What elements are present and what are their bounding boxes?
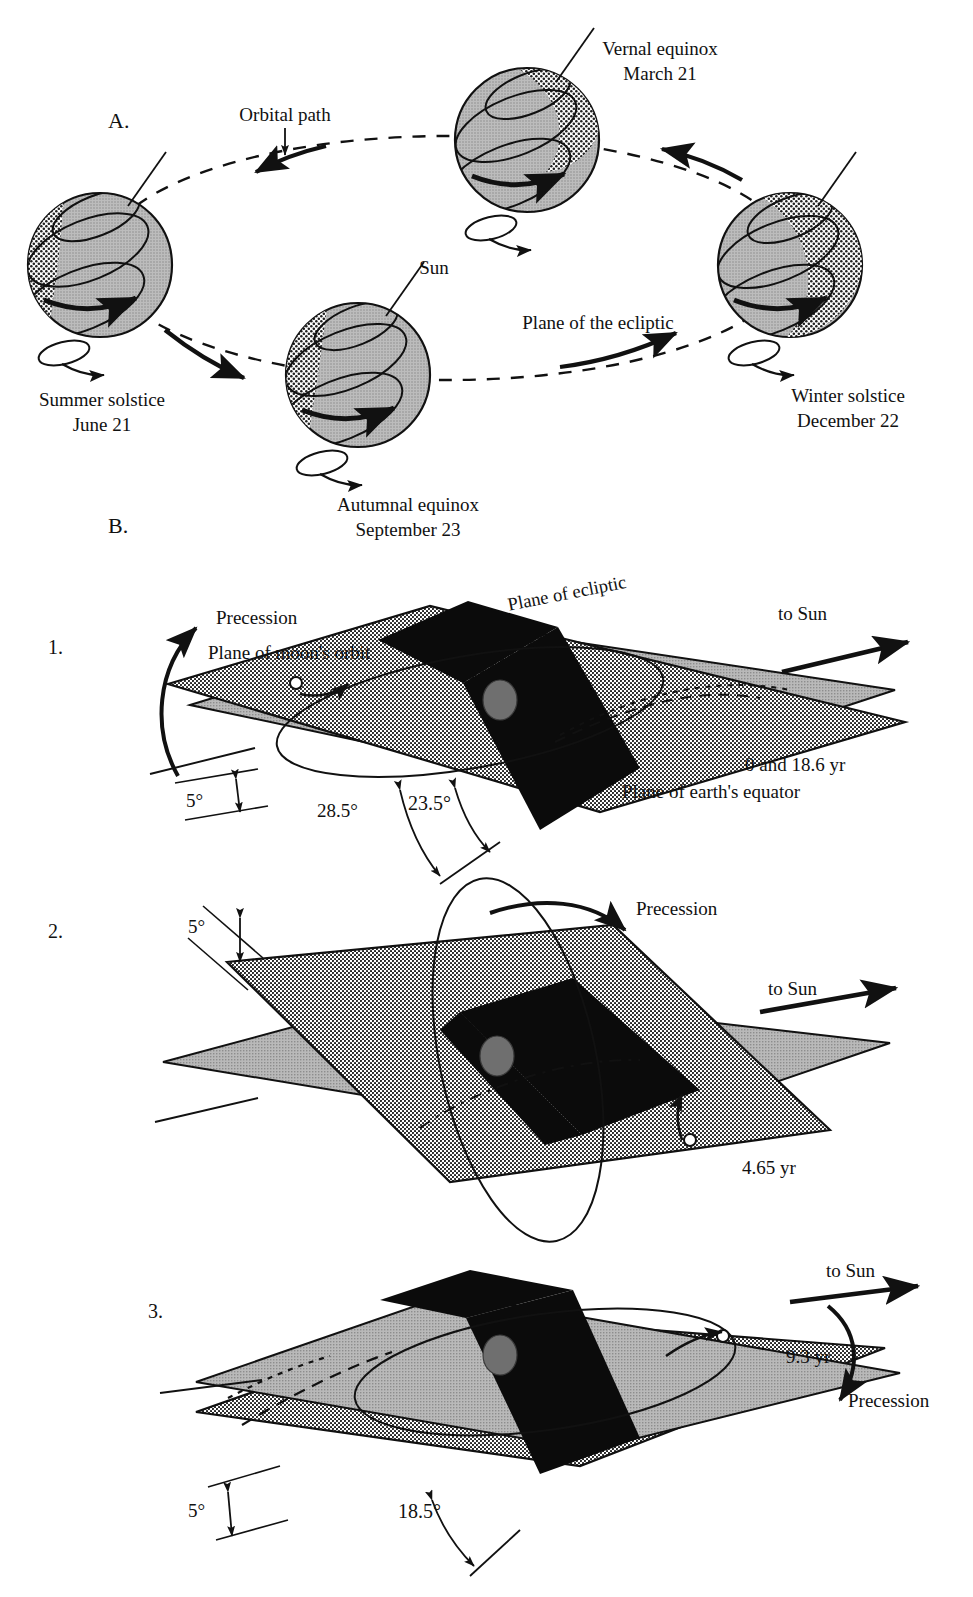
panel-b-letter: B.	[108, 513, 128, 539]
panel-a-letter: A.	[108, 108, 129, 134]
precession-arrow-1	[162, 628, 196, 776]
step-2-to-sun-label: to Sun	[768, 978, 817, 1000]
earth-globe-autumnal-equinox	[268, 262, 430, 485]
orbit-direction-arrow-top	[256, 146, 326, 172]
earth-body-2	[480, 1036, 514, 1076]
step-1-plane-of-moons-orbit-label: Plane of moon's orbit	[208, 642, 370, 664]
winter-solstice-date: December 22	[797, 410, 899, 432]
autumnal-equinox-label: Autumnal equinox	[337, 494, 479, 516]
angle-dimension-18-5-deg-3	[432, 1500, 520, 1576]
plane-of-the-ecliptic-label: Plane of the ecliptic	[522, 312, 673, 334]
step-1-to-sun-label: to Sun	[778, 603, 827, 625]
sun-label: Sun	[419, 257, 449, 279]
step-2-number: 2.	[48, 920, 63, 944]
earth-globe-summer-solstice	[10, 152, 172, 375]
summer-solstice-label: Summer solstice	[39, 389, 165, 411]
step-1-precession-label: Precession	[216, 607, 297, 629]
earth-globe-vernal-equinox	[436, 28, 601, 250]
vernal-equinox-label: Vernal equinox	[602, 38, 718, 60]
summer-solstice-date: June 21	[73, 414, 132, 436]
autumnal-equinox-date: September 23	[355, 519, 460, 541]
step-1-plane-of-earths-equator-label: Plane of earth's equator	[622, 781, 800, 803]
step-1-time-label: 0 and 18.6 yr	[745, 754, 845, 776]
step-3-angle-18-5deg-label: 18.5°	[398, 1500, 441, 1524]
earth-body-1	[483, 680, 517, 720]
step-3-number: 3.	[148, 1300, 163, 1324]
step-3-to-sun-label: to Sun	[826, 1260, 875, 1282]
winter-solstice-label: Winter solstice	[791, 385, 905, 407]
to-sun-arrow-3	[790, 1286, 918, 1302]
panel-b-step-3-diagram	[160, 1270, 918, 1576]
step-3-time-label: 9.3 yr	[786, 1346, 830, 1368]
step-2-time-label: 4.65 yr	[742, 1157, 796, 1179]
panel-b-step-2-diagram	[155, 863, 896, 1257]
step-1-number: 1.	[48, 636, 63, 660]
step-3-precession-label: Precession	[848, 1390, 929, 1412]
orbit-direction-arrow-bottom	[560, 333, 676, 367]
equator-leader-2	[155, 1098, 258, 1122]
moon-body-1	[290, 677, 302, 689]
step-1-angle-28-5deg-label: 28.5°	[317, 800, 358, 822]
step-2-precession-label: Precession	[636, 898, 717, 920]
step-3-angle-5deg-label: 5°	[188, 1500, 205, 1522]
vernal-equinox-date: March 21	[623, 63, 696, 85]
moon-body-2	[684, 1134, 696, 1146]
step-2-angle-5deg-label: 5°	[188, 916, 205, 938]
earth-body-3	[483, 1335, 517, 1375]
orbital-path-label: Orbital path	[239, 104, 330, 126]
angle-dimension-5deg-3	[208, 1466, 288, 1540]
to-sun-arrow-1	[782, 642, 908, 672]
step-1-angle-23-5deg-label: 23.5°	[408, 792, 451, 816]
step-1-angle-5deg-label: 5°	[186, 790, 203, 812]
